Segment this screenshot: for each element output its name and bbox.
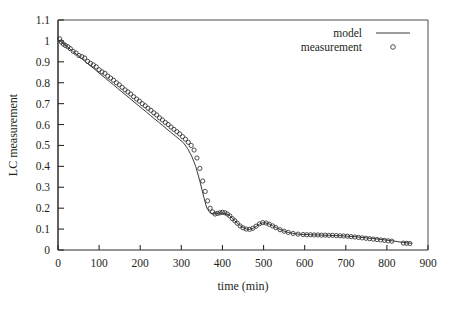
measurement-point xyxy=(195,156,199,160)
x-tick-label: 700 xyxy=(337,257,355,269)
y-tick-label: 1 xyxy=(44,35,50,47)
x-tick-label: 100 xyxy=(90,257,108,269)
y-tick-label: 0.7 xyxy=(36,98,51,110)
x-tick-label: 800 xyxy=(378,257,396,269)
y-tick-label: 0.2 xyxy=(36,202,51,214)
x-tick-label: 200 xyxy=(132,257,150,269)
y-tick-label: 0 xyxy=(44,244,50,256)
y-tick-label: 0.1 xyxy=(36,223,51,235)
measurement-point xyxy=(169,125,173,129)
measurement-point xyxy=(172,127,176,131)
y-tick-label: 0.3 xyxy=(36,181,51,193)
y-axis-title: LC measurement xyxy=(6,93,20,176)
measurement-point xyxy=(198,166,202,170)
y-tick-label: 0.9 xyxy=(36,56,51,68)
x-axis-tick-labels: 0100200300400500600700800900 xyxy=(55,257,437,269)
measurement-point xyxy=(132,95,136,99)
y-tick-label: 0.8 xyxy=(36,77,51,89)
chart-legend: modelmeasurement xyxy=(301,27,410,53)
x-tick-label: 0 xyxy=(55,257,61,269)
x-axis-ticks xyxy=(58,245,428,250)
measurement-point xyxy=(203,189,207,193)
measurement-point xyxy=(189,143,193,147)
x-axis-title: time (min) xyxy=(218,279,269,293)
axis-lines xyxy=(58,20,428,250)
model-curve xyxy=(60,41,412,243)
y-tick-label: 1.1 xyxy=(36,14,51,26)
series-measurement xyxy=(58,37,412,246)
chart-figure: 0100200300400500600700800900 00.10.20.30… xyxy=(0,0,460,310)
measurement-point xyxy=(206,199,210,203)
y-axis-tick-labels: 00.10.20.30.40.50.60.70.80.911.1 xyxy=(36,14,51,256)
x-tick-label: 400 xyxy=(214,257,232,269)
measurement-point xyxy=(163,120,167,124)
legend-label-measurement: measurement xyxy=(301,41,363,53)
measurement-point xyxy=(201,179,205,183)
y-tick-label: 0.4 xyxy=(36,160,51,172)
x-tick-label: 300 xyxy=(173,257,191,269)
plot-frame-border xyxy=(58,20,428,250)
y-tick-label: 0.6 xyxy=(36,119,51,131)
plot-frame xyxy=(58,20,428,250)
y-tick-label: 0.5 xyxy=(36,139,51,151)
series-model xyxy=(60,41,412,243)
legend-label-model: model xyxy=(333,27,362,39)
legend-circle-swatch xyxy=(391,45,396,50)
x-tick-label: 900 xyxy=(419,257,437,269)
chart-svg: 0100200300400500600700800900 00.10.20.30… xyxy=(0,0,460,310)
x-tick-label: 600 xyxy=(296,257,314,269)
measurement-point xyxy=(157,116,161,120)
x-tick-label: 500 xyxy=(255,257,273,269)
measurement-point xyxy=(192,148,196,152)
measurement-point xyxy=(175,130,179,134)
y-axis-ticks xyxy=(58,20,64,250)
